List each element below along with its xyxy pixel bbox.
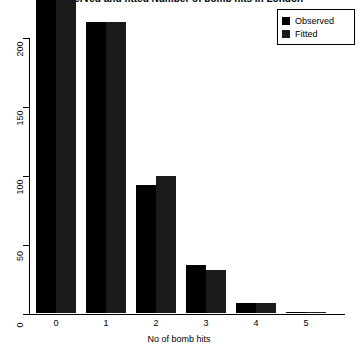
x-axis-title: No of bomb hits bbox=[0, 334, 358, 344]
plot-area: 050100150200 012345 No of bomb hits bbox=[0, 0, 358, 352]
bar-fitted-3 bbox=[206, 270, 226, 313]
x-axis-line bbox=[29, 314, 345, 315]
bar-fitted-0 bbox=[56, 0, 76, 313]
bar-observed-2 bbox=[136, 185, 156, 313]
chart-legend: ObservedFitted bbox=[277, 9, 355, 45]
bar-observed-1 bbox=[86, 22, 106, 313]
legend-label: Fitted bbox=[295, 29, 318, 39]
bar-fitted-2 bbox=[156, 176, 176, 313]
bar-observed-5 bbox=[286, 312, 306, 314]
bar-fitted-4 bbox=[256, 303, 276, 313]
y-tick-label: 50 bbox=[15, 244, 25, 268]
x-tick-label: 3 bbox=[191, 318, 221, 328]
bar-chart-figure: Observed and fitted Number of bomb hits … bbox=[0, 0, 358, 352]
legend-row: Fitted bbox=[282, 27, 351, 40]
legend-label: Observed bbox=[295, 16, 334, 26]
legend-swatch-icon bbox=[282, 30, 290, 38]
y-tick-label: 100 bbox=[15, 175, 25, 199]
bar-observed-3 bbox=[186, 265, 206, 313]
x-tick-label: 2 bbox=[141, 318, 171, 328]
y-axis-line bbox=[29, 38, 30, 314]
bar-observed-4 bbox=[236, 303, 256, 313]
bar-fitted-1 bbox=[106, 22, 126, 313]
bar-observed-0 bbox=[36, 0, 56, 313]
x-tick-label: 1 bbox=[91, 318, 121, 328]
y-tick-label: 150 bbox=[15, 106, 25, 130]
legend-swatch-icon bbox=[282, 17, 290, 25]
x-tick-label: 4 bbox=[241, 318, 271, 328]
x-tick-label: 5 bbox=[291, 318, 321, 328]
x-tick-label: 0 bbox=[41, 318, 71, 328]
y-tick-label: 200 bbox=[15, 37, 25, 61]
legend-row: Observed bbox=[282, 14, 351, 27]
bar-fitted-5 bbox=[306, 312, 326, 314]
